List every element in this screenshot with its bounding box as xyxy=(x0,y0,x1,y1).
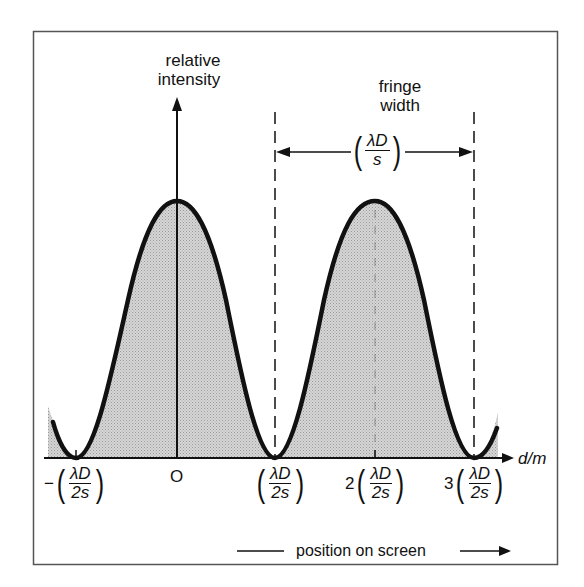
position-caption: position on screen xyxy=(296,541,426,560)
paren-close: ) xyxy=(396,466,404,502)
numerator: λD xyxy=(368,465,393,483)
fringe-arrowhead-right-icon xyxy=(459,147,473,157)
numerator: λD xyxy=(467,465,492,483)
denominator: 2s xyxy=(69,483,91,502)
denominator: 2s xyxy=(269,483,291,502)
fraction: λD s xyxy=(365,132,390,169)
numerator: λD xyxy=(365,132,390,150)
fringe-arrowhead-left-icon xyxy=(276,147,290,157)
fringe-label-line2: width xyxy=(360,96,440,115)
tick-label-2: 2 ( λD 2s ) xyxy=(345,465,406,502)
caption-arrowhead-icon xyxy=(499,546,511,556)
paren-close: ) xyxy=(95,466,103,502)
tick-label-neg1: − ( λD 2s ) xyxy=(44,465,106,502)
numerator: λD xyxy=(68,465,93,483)
fringe-width-expression: ( λD s ) xyxy=(352,132,403,169)
paren-open: ( xyxy=(456,466,464,502)
x-axis-label: d/m xyxy=(518,449,546,468)
fraction: λD 2s xyxy=(268,465,293,502)
fringe-label-line1: fringe xyxy=(360,77,440,96)
denominator: 2s xyxy=(370,483,392,502)
paren-open: ( xyxy=(357,466,365,502)
paren-close: ) xyxy=(495,466,503,502)
tick-coef: − xyxy=(44,474,54,493)
fraction: λD 2s xyxy=(68,465,93,502)
tick-label-1: ( λD 2s ) xyxy=(255,465,306,502)
paren-open: ( xyxy=(354,133,362,169)
tick-coef: 2 xyxy=(345,474,354,493)
fraction: λD 2s xyxy=(368,465,393,502)
y-axis-label-line1: relative xyxy=(143,51,243,70)
paren-close: ) xyxy=(392,133,400,169)
fraction: λD 2s xyxy=(467,465,492,502)
numerator: λD xyxy=(268,465,293,483)
paren-close: ) xyxy=(295,466,303,502)
y-axis-label: relative intensity xyxy=(143,51,243,89)
y-axis-arrowhead-icon xyxy=(172,97,182,111)
y-axis-label-line2: intensity xyxy=(135,70,243,89)
denominator: s xyxy=(365,150,390,169)
tick-label-origin: O xyxy=(170,467,183,486)
fringe-width-label: fringe width xyxy=(360,77,440,115)
paren-open: ( xyxy=(57,466,65,502)
x-axis-arrowhead-icon xyxy=(502,453,514,463)
tick-coef: 3 xyxy=(444,474,453,493)
denominator: 2s xyxy=(469,483,491,502)
paren-open: ( xyxy=(257,466,265,502)
tick-label-3: 3 ( λD 2s ) xyxy=(444,465,505,502)
